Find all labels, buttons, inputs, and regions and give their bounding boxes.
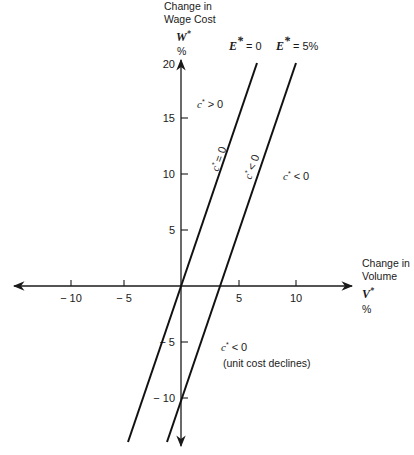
x-tick-label-m10: − 10 <box>60 292 82 304</box>
line-e-five-percent <box>167 63 296 442</box>
y-axis-symbol: W* <box>176 29 192 44</box>
x-axis-title-line1: Change in <box>362 257 410 269</box>
label-e-five-percent: E*= 5% <box>275 34 319 53</box>
diagram-canvas: − 10 − 5 5 10 20 15 10 5 − 5 − 10 Change… <box>0 0 414 455</box>
y-tick-label-15: 15 <box>163 112 175 124</box>
label-c-less-zero-on-line: c*< 0 <box>242 153 262 181</box>
x-axis-title-line2: Volume <box>362 270 397 282</box>
label-e-zero: E*= 0 <box>228 34 262 53</box>
region-label-lower: c*< 0 <box>221 341 247 353</box>
line-e-zero <box>128 63 257 442</box>
y-tick-label-20: 20 <box>163 58 175 70</box>
y-axis-title-line2: Wage Cost <box>164 13 216 25</box>
y-tick-label-5: 5 <box>169 224 175 236</box>
y-tick-label-m10: − 10 <box>153 392 175 404</box>
y-axis-unit: % <box>177 45 186 57</box>
x-axis-unit: % <box>362 303 371 315</box>
region-label-right: c*< 0 <box>283 170 309 182</box>
x-tick-label-5: 5 <box>236 292 242 304</box>
y-ticks <box>181 118 188 398</box>
y-tick-label-10: 10 <box>163 168 175 180</box>
region-label-lower-note: (unit cost declines) <box>223 357 311 369</box>
x-tick-label-10: 10 <box>290 292 302 304</box>
label-c-equals-zero: c*= 0 <box>209 145 229 173</box>
region-label-upper-left: c*> 0 <box>197 98 223 110</box>
y-axis-title-line1: Change in <box>164 0 212 12</box>
x-tick-label-m5: − 5 <box>116 292 132 304</box>
x-axis-symbol: V* <box>362 286 375 301</box>
